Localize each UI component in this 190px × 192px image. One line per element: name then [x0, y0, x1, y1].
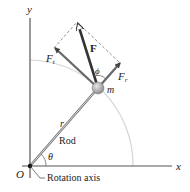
- tangential-force-label: Ft: [45, 52, 56, 66]
- rotating-rod-force-diagram: y x O F Ft Fr ϕ m r Rod θ Rotation axis: [0, 0, 190, 192]
- phi-label: ϕ: [95, 66, 100, 76]
- rod-highlight: [30, 88, 98, 166]
- force-label: F: [90, 42, 97, 54]
- y-axis-label: y: [26, 3, 32, 15]
- radial-force-label: Fr: [117, 70, 128, 84]
- radius-label: r: [60, 118, 64, 129]
- dashed-line-ft-to-f: [54, 22, 77, 48]
- mass-label: m: [107, 84, 114, 95]
- radial-force-subscript: r: [125, 76, 128, 84]
- theta-arc: [41, 154, 46, 166]
- origin-label: O: [16, 168, 24, 180]
- theta-label: θ: [48, 151, 53, 162]
- rotation-axis-label: Rotation axis: [47, 172, 100, 183]
- rod-label: Rod: [59, 135, 76, 146]
- tangential-force-subscript: t: [53, 58, 56, 66]
- rotation-axis-leader: [30, 166, 45, 178]
- mass-ball: [92, 82, 104, 94]
- x-axis-label: x: [175, 160, 181, 172]
